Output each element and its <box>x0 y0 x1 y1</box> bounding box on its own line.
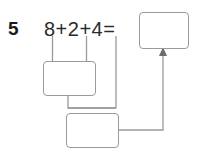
bracket-partial1-to-4 <box>68 96 116 108</box>
answer-box-sum[interactable] <box>139 12 189 49</box>
math-worksheet-problem: 5 8+2+4= <box>0 0 200 164</box>
answer-box-partial-1[interactable] <box>43 61 96 96</box>
answer-box-partial-2[interactable] <box>66 113 119 148</box>
arrow-path-to-sum <box>119 54 163 130</box>
